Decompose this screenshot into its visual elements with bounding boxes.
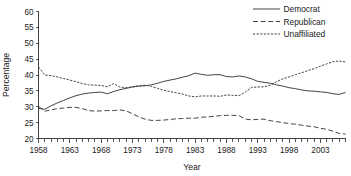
y-tick-label: 25 (24, 119, 34, 128)
line-chart: 202530354045505560 195819631968197319781… (0, 0, 351, 176)
y-tick-label: 40 (24, 71, 34, 80)
x-tick-label: 1973 (123, 146, 142, 155)
series-line-republican (39, 106, 346, 134)
series-line-unaffiliated (39, 61, 346, 97)
x-tick-label: 1958 (29, 146, 48, 155)
series-line-democrat (39, 73, 346, 109)
x-tick-label: 1978 (155, 146, 174, 155)
y-axis-tick-group: 202530354045505560 (24, 8, 38, 144)
legend-label-unaffiliated: Unaffiliated (284, 29, 326, 39)
y-tick-label: 60 (24, 8, 34, 17)
x-tick-label: 1993 (249, 146, 268, 155)
y-tick-label: 20 (24, 135, 34, 144)
chart-figure: 202530354045505560 195819631968197319781… (0, 0, 351, 176)
y-tick-label: 30 (24, 103, 34, 112)
legend-label-republican: Republican (284, 17, 326, 27)
x-tick-label: 1998 (280, 146, 299, 155)
series-group (39, 61, 346, 134)
y-tick-label: 35 (24, 87, 34, 96)
x-tick-label: 1963 (61, 146, 80, 155)
x-tick-label: 1968 (92, 146, 111, 155)
x-tick-label: 1988 (217, 146, 236, 155)
y-tick-label: 45 (24, 55, 34, 64)
y-tick-label: 50 (24, 39, 34, 48)
chart-legend: DemocratRepublicanUnaffiliated (253, 4, 326, 39)
y-tick-label: 55 (24, 23, 34, 32)
y-axis-title: Percentage (1, 53, 11, 97)
x-tick-label: 1983 (186, 146, 205, 155)
x-axis-title: Year (183, 162, 201, 172)
x-axis-tick-group: 1958196319681973197819831988199319982003 (29, 139, 345, 155)
x-tick-label: 2003 (311, 146, 330, 155)
legend-label-democrat: Democrat (284, 4, 321, 14)
